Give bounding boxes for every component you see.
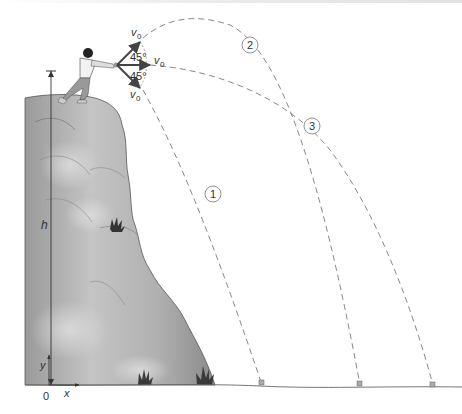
svg-text:0: 0 bbox=[136, 94, 141, 103]
angle-label-upper: 45° bbox=[130, 51, 147, 63]
landing-points bbox=[259, 380, 435, 387]
svg-text:0: 0 bbox=[137, 32, 142, 41]
person-throwing bbox=[58, 48, 119, 104]
projectile-diagram: 1 2 3 v 0 v 0 v 0 45° 45° h y x 0 bbox=[0, 0, 462, 414]
trajectory-label-1: 1 bbox=[205, 186, 221, 202]
velocity-label-middle: v 0 bbox=[154, 54, 165, 69]
ground-line bbox=[25, 385, 462, 388]
cliff bbox=[25, 95, 215, 385]
svg-text:1: 1 bbox=[210, 188, 216, 200]
origin-label: 0 bbox=[43, 390, 49, 402]
x-axis-label: x bbox=[63, 387, 70, 399]
velocity-label-upper: v 0 bbox=[131, 26, 142, 41]
angle-label-lower: 45° bbox=[130, 70, 147, 82]
svg-text:3: 3 bbox=[309, 120, 315, 132]
velocity-label-lower: v 0 bbox=[130, 88, 141, 103]
trajectory-label-2: 2 bbox=[242, 37, 258, 53]
svg-text:0: 0 bbox=[160, 60, 165, 69]
svg-text:2: 2 bbox=[247, 39, 253, 51]
height-label: h bbox=[41, 218, 48, 232]
trajectory-label-3: 3 bbox=[304, 118, 320, 134]
